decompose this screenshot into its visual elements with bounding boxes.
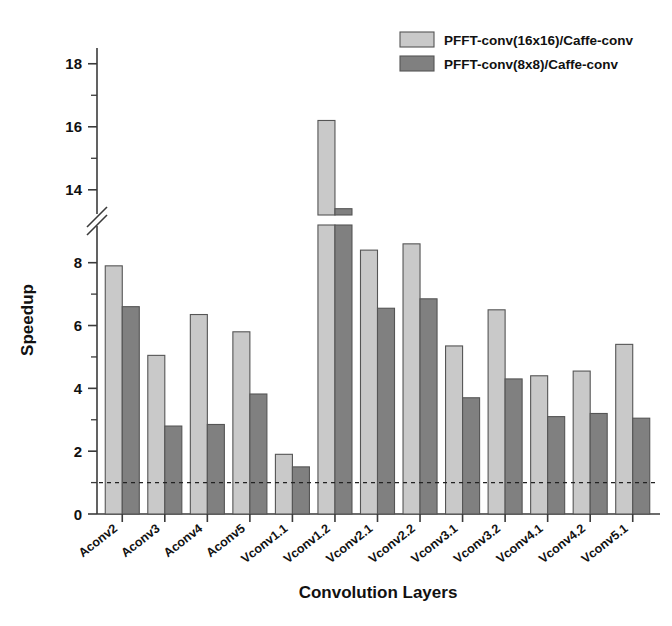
legend-label-2: PFFT-conv(8x8)/Caffe-conv [444,57,619,72]
bar-Vconv3.2-s1 [488,310,505,514]
bar-Vconv1.1-s1 [275,454,292,514]
bar-Vconv3.1-s2 [463,398,480,514]
speedup-bar-chart: 02468141618SpeedupAconv2Aconv3Aconv4Acon… [0,0,672,626]
x-category-label: Aconv3 [118,521,162,560]
bar-Aconv2-s1 [105,266,122,514]
category-labels-group: Aconv2Aconv3Aconv4Aconv5Vconv1.1Vconv1.2… [76,514,633,566]
y-tick-label: 8 [74,254,82,271]
bar-Vconv2.1-s1 [360,250,377,514]
legend: PFFT-conv(16x16)/Caffe-convPFFT-conv(8x8… [400,32,634,72]
bar-Vconv5.1-s2 [633,418,650,514]
bar-Vconv2.2-s1 [403,244,420,514]
bar-Vconv3.1-s1 [446,346,463,514]
x-category-label: Aconv4 [161,521,205,560]
x-category-label: Vconv4.2 [536,521,588,566]
x-axis-title: Convolution Layers [299,583,458,602]
bar-Vconv1.2-s1-lower [318,225,335,514]
bar-Vconv1.1-s2 [292,467,309,514]
bar-Vconv1.2-s2-upper [335,209,352,215]
bar-Aconv3-s1 [148,355,165,514]
y-tick-label: 16 [65,118,82,135]
legend-swatch-1 [400,32,434,47]
y-tick-label: 18 [65,55,82,72]
bar-Aconv4-s2 [207,424,224,514]
y-tick-label: 6 [74,317,82,334]
bar-Vconv4.2-s1 [573,371,590,514]
y-tick-label: 0 [74,506,82,523]
x-category-label: Vconv2.1 [323,521,375,566]
bar-Vconv1.2-s2-lower [335,225,352,514]
y-tick-label: 4 [74,380,83,397]
x-category-label: Vconv4.1 [494,521,546,566]
bar-Vconv2.2-s2 [420,299,437,514]
x-category-label: Aconv2 [76,521,120,560]
x-category-label: Vconv3.2 [451,521,503,566]
x-category-label: Vconv5.1 [579,521,631,566]
bar-Vconv3.2-s2 [505,379,522,514]
x-category-label: Vconv1.2 [281,521,333,566]
bar-Vconv4.1-s2 [548,417,565,514]
y-tick-label: 2 [74,443,82,460]
x-category-label: Vconv1.1 [238,521,290,566]
bar-Aconv3-s2 [165,426,182,514]
x-category-label: Vconv3.1 [409,521,461,566]
x-category-label: Vconv2.2 [366,521,418,566]
bar-Aconv5-s1 [233,332,250,514]
bars-group [105,120,649,514]
y-tick-group: 02468141618 [65,55,97,522]
bar-Vconv4.2-s2 [590,413,607,514]
legend-label-1: PFFT-conv(16x16)/Caffe-conv [444,33,634,48]
y-axis-title: Speedup [18,284,37,356]
bar-Vconv1.2-s1-upper [318,120,335,215]
legend-swatch-2 [400,56,434,71]
bar-Aconv4-s1 [190,315,207,514]
chart-canvas: 02468141618SpeedupAconv2Aconv3Aconv4Acon… [0,0,672,626]
bar-Aconv5-s2 [250,394,267,514]
bar-Vconv4.1-s1 [531,376,548,514]
bar-Vconv5.1-s1 [616,344,633,514]
y-tick-label: 14 [65,181,82,198]
